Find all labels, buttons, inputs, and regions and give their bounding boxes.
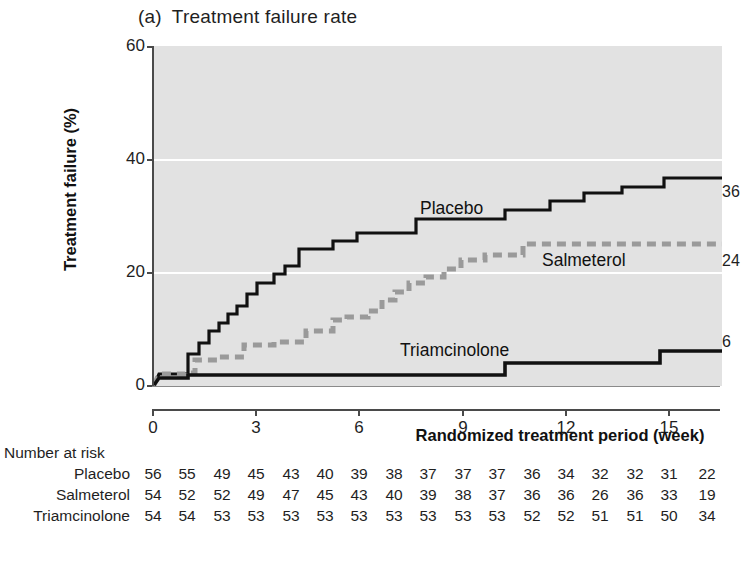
x-tick-mark-3	[255, 409, 257, 416]
risk-cell: 50	[654, 507, 684, 525]
table-row: Placebo 56 55 49 45 43 40 39 38 37 37 37…	[0, 465, 741, 486]
curve-label-salmeterol: Salmeterol	[542, 250, 626, 271]
curve-label-placebo: Placebo	[420, 198, 483, 219]
risk-cell: 38	[448, 486, 478, 504]
risk-cell: 53	[482, 507, 512, 525]
y-tick-mark-60	[147, 46, 154, 48]
y-tick-label-40: 40	[105, 149, 145, 169]
table-row: Triamcinolone 54 54 53 53 53 53 53 53 53…	[0, 507, 741, 528]
risk-cell: 36	[517, 486, 547, 504]
risk-table-title: Number at risk	[4, 444, 105, 462]
risk-cell: 53	[448, 507, 478, 525]
risk-cell: 40	[379, 486, 409, 504]
plot-baseline	[152, 386, 720, 387]
risk-cell: 39	[413, 486, 443, 504]
end-value-placebo: 36	[722, 183, 740, 201]
risk-cell: 39	[344, 465, 374, 483]
risk-cell: 32	[585, 465, 615, 483]
y-tick-mark-20	[147, 272, 154, 274]
risk-cell: 53	[276, 507, 306, 525]
y-tick-label-20: 20	[105, 262, 145, 282]
y-tick-mark-40	[147, 159, 154, 161]
y-tick-label-0: 0	[105, 375, 145, 395]
risk-cell: 54	[138, 507, 168, 525]
risk-cell: 45	[241, 465, 271, 483]
risk-cell: 37	[413, 465, 443, 483]
risk-cell: 51	[585, 507, 615, 525]
risk-cell: 53	[379, 507, 409, 525]
x-tick-mark-9	[462, 409, 464, 416]
risk-cell: 34	[551, 465, 581, 483]
end-value-triamcinolone: 6	[722, 333, 731, 351]
risk-row-label-triamcinolone: Triamcinolone	[0, 507, 130, 525]
risk-cell: 33	[654, 486, 684, 504]
risk-cell: 36	[620, 486, 650, 504]
risk-cell: 53	[413, 507, 443, 525]
risk-cell: 40	[310, 465, 340, 483]
risk-cell: 52	[517, 507, 547, 525]
risk-row-label-salmeterol: Salmeterol	[0, 486, 130, 504]
risk-cell: 45	[310, 486, 340, 504]
panel-tag: (a)	[138, 6, 162, 27]
risk-cell: 53	[241, 507, 271, 525]
end-value-salmeterol: 24	[722, 252, 740, 270]
x-tick-mark-0	[152, 409, 154, 416]
risk-cell: 56	[138, 465, 168, 483]
plot-area: Placebo Salmeterol Triamcinolone	[152, 46, 722, 386]
risk-cell: 37	[482, 486, 512, 504]
risk-cell: 22	[692, 465, 722, 483]
x-tick-mark-12	[565, 409, 567, 416]
table-row: Salmeterol 54 52 52 49 47 45 43 40 39 38…	[0, 486, 741, 507]
risk-cell: 52	[207, 486, 237, 504]
risk-cell: 54	[138, 486, 168, 504]
risk-cell: 37	[482, 465, 512, 483]
figure-panel-a: (a)Treatment failure rate Treatment fail…	[0, 0, 741, 572]
x-tick-label-6: 6	[344, 418, 374, 438]
risk-cell: 38	[379, 465, 409, 483]
risk-table: Placebo 56 55 49 45 43 40 39 38 37 37 37…	[0, 465, 741, 528]
risk-cell: 26	[585, 486, 615, 504]
risk-cell: 54	[172, 507, 202, 525]
x-tick-label-3: 3	[241, 418, 271, 438]
risk-cell: 55	[172, 465, 202, 483]
risk-cell: 43	[344, 486, 374, 504]
x-tick-mark-6	[358, 409, 360, 416]
risk-cell: 47	[276, 486, 306, 504]
risk-cell: 53	[344, 507, 374, 525]
risk-cell: 53	[310, 507, 340, 525]
page-title: (a)Treatment failure rate	[138, 6, 357, 28]
risk-cell: 36	[517, 465, 547, 483]
risk-cell: 49	[207, 465, 237, 483]
curve-label-triamcinolone: Triamcinolone	[400, 340, 509, 361]
risk-cell: 53	[207, 507, 237, 525]
y-axis-title: Treatment failure (%)	[61, 60, 80, 320]
risk-cell: 43	[276, 465, 306, 483]
risk-cell: 32	[620, 465, 650, 483]
x-axis-title: Randomized treatment period (week)	[380, 426, 740, 445]
x-tick-mark-15	[668, 409, 670, 416]
risk-cell: 49	[241, 486, 271, 504]
x-tick-label-0: 0	[138, 418, 168, 438]
risk-cell: 52	[172, 486, 202, 504]
risk-cell: 31	[654, 465, 684, 483]
risk-row-label-placebo: Placebo	[0, 465, 130, 483]
risk-cell: 37	[448, 465, 478, 483]
risk-cell: 19	[692, 486, 722, 504]
risk-cell: 51	[620, 507, 650, 525]
x-axis-line	[152, 409, 720, 411]
risk-cell: 52	[551, 507, 581, 525]
risk-cell: 36	[551, 486, 581, 504]
panel-title-text: Treatment failure rate	[172, 6, 357, 27]
y-tick-label-60: 60	[105, 36, 145, 56]
risk-cell: 34	[692, 507, 722, 525]
